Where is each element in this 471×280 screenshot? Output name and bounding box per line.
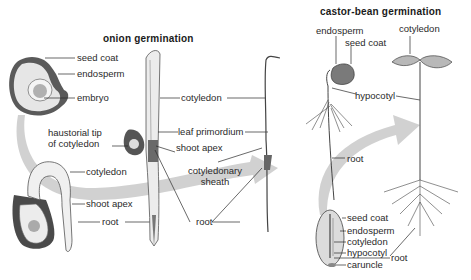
label-castor-root-right: root <box>391 253 407 263</box>
castor-seedling-icon <box>384 56 458 236</box>
onion-mature-seedling-icon <box>264 56 280 232</box>
leader-lines-castor-right <box>390 36 415 256</box>
onion-germination-title: onion germination <box>103 33 194 44</box>
label-haustorial-tip-line2: of cotyledon <box>48 139 99 149</box>
label-castor-caruncle: caruncle <box>347 260 383 270</box>
label-castor-cotyledon: cotyledon <box>347 237 388 247</box>
label-castor-seed-coat-top: seed coat <box>345 38 386 48</box>
label-castor-cotyledon-top: cotyledon <box>399 24 440 34</box>
label-leaf-primordium: leaf primordium <box>178 127 243 137</box>
label-endosperm: endosperm <box>77 69 125 79</box>
label-castor-hypocotyl-seed: hypocotyl <box>347 248 387 258</box>
label-cotyledonary-sheath-line1: cotyledonary <box>184 166 246 176</box>
label-cotyledon-mid: cotyledon <box>181 93 222 103</box>
label-castor-root-mid: root <box>347 154 363 164</box>
onion-seed-icon <box>9 57 68 116</box>
label-shoot-apex-mid: shoot apex <box>176 143 222 153</box>
onion-seedling-icon <box>124 51 160 246</box>
label-seed-coat: seed coat <box>77 53 118 63</box>
label-shoot-apex-lower: shoot apex <box>86 199 132 209</box>
label-castor-hypocotyl: hypocotyl <box>355 91 395 101</box>
castor-seed-icon <box>316 210 344 267</box>
germination-diagram: onion germination castor-bean germinatio… <box>0 0 471 280</box>
label-haustorial-tip-line1: haustorial tip <box>48 128 102 138</box>
label-castor-endosperm: endosperm <box>347 226 395 236</box>
label-cotyledonary-sheath-line2: sheath <box>184 177 246 187</box>
castor-bean-germination-title: castor-bean germination <box>320 6 441 17</box>
leader-lines-onion-mid <box>112 98 268 222</box>
label-castor-seed-coat: seed coat <box>347 213 388 223</box>
label-castor-endosperm-top: endosperm <box>316 26 364 36</box>
label-root-lower: root <box>102 217 118 227</box>
onion-germinating-seed-icon <box>12 162 72 252</box>
label-cotyledon-lower: cotyledon <box>86 167 127 177</box>
label-root-right: root <box>196 217 212 227</box>
label-embryo: embryo <box>77 93 109 103</box>
